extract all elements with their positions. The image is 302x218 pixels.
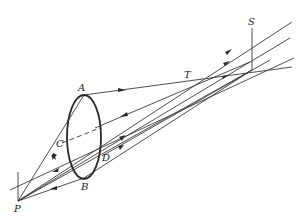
line-middle-ellipse	[95, 62, 250, 128]
line-p-to-d	[18, 70, 252, 201]
arrow-upper-right-3	[222, 75, 229, 79]
line-bottom-left-to-right	[10, 58, 294, 190]
label-s: S	[248, 16, 255, 27]
label-b: B	[80, 181, 88, 192]
arrow-d-lower-2	[118, 145, 124, 150]
label-t: T	[184, 69, 192, 80]
label-p: P	[13, 203, 21, 214]
arrow-a-line	[118, 88, 126, 92]
arrow-upper-right-1	[225, 49, 232, 55]
line-p-to-a	[18, 95, 84, 201]
line-p-through-c	[18, 22, 292, 201]
label-a: A	[77, 82, 85, 93]
arrow-middle-line	[120, 112, 128, 117]
arrow-left-upper	[52, 153, 57, 160]
label-d: D	[101, 152, 110, 163]
label-c: C	[56, 138, 64, 149]
ellipse-aperture	[67, 95, 101, 179]
diagram-canvas: P A B C D T S	[0, 0, 302, 218]
